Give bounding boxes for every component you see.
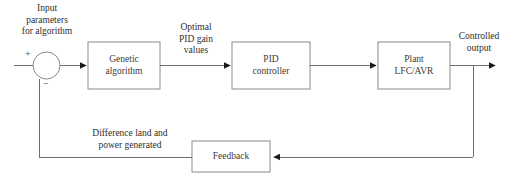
label-optimal-pid-gains: Optimal PID gain values [163, 22, 229, 57]
label-input-parameters: Input parameters for algorithm [6, 3, 88, 38]
sum-minus-sign: − [43, 79, 49, 89]
plant-line1: Plant [378, 54, 450, 66]
block-label-pid-controller: PID controller [232, 54, 310, 77]
label-controlled-output: Controlled output [446, 31, 512, 54]
pid-controller-line2: controller [232, 66, 310, 78]
block-label-genetic-algorithm: Genetic algorithm [88, 54, 160, 77]
block-label-feedback: Feedback [192, 151, 270, 163]
label-optimal-line1: Optimal [163, 22, 229, 34]
pid-controller-line1: PID [232, 54, 310, 66]
label-input-line3: for algorithm [6, 26, 88, 38]
label-input-line2: parameters [6, 15, 88, 27]
summing-junction [33, 52, 60, 79]
label-feedback-signal: Difference land and power generated [62, 128, 198, 151]
label-input-line1: Input [6, 3, 88, 15]
label-optimal-line2: PID gain [163, 34, 229, 46]
plant-line2: LFC/AVR [378, 66, 450, 78]
genetic-algorithm-line2: algorithm [88, 66, 160, 78]
label-controlled-line2: output [446, 43, 512, 55]
genetic-algorithm-line1: Genetic [88, 54, 160, 66]
label-feedback-line1: Difference land and [62, 128, 198, 140]
feedback-line1: Feedback [192, 151, 270, 163]
label-feedback-line2: power generated [62, 140, 198, 152]
label-controlled-line1: Controlled [446, 31, 512, 43]
sum-plus-sign: + [25, 49, 31, 59]
block-label-plant: Plant LFC/AVR [378, 54, 450, 77]
block-diagram: + − Input parameters for algorithm Optim… [0, 0, 516, 190]
label-optimal-line3: values [163, 45, 229, 57]
